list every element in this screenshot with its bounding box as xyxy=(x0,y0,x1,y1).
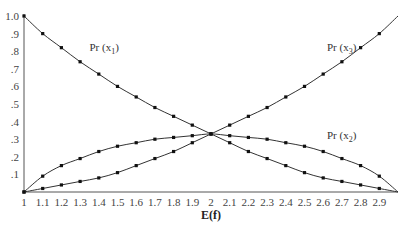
y-tick-label: .8 xyxy=(11,45,20,57)
x-tick-label: 2 xyxy=(208,196,214,208)
y-tick-label: .6 xyxy=(11,80,20,92)
data-point-marker xyxy=(359,183,362,186)
x-tick-label: 2.4 xyxy=(279,196,293,208)
data-point-marker xyxy=(172,115,175,118)
data-point-marker xyxy=(247,150,250,153)
x-tick-label: 2.7 xyxy=(335,196,349,208)
x-tick-label: 1.3 xyxy=(73,196,87,208)
x-tick-label: 2.3 xyxy=(260,196,274,208)
y-tick-label: .7 xyxy=(11,63,20,75)
data-point-marker xyxy=(135,95,138,98)
y-tick-label: .1 xyxy=(11,168,19,180)
x-tick-label: 2.5 xyxy=(298,196,312,208)
y-tick-label: .3 xyxy=(11,133,20,145)
data-point-marker xyxy=(79,180,82,183)
data-point-marker xyxy=(303,171,306,174)
x-tick-label: 1.7 xyxy=(148,196,162,208)
data-point-marker xyxy=(378,175,381,178)
series-label: Pr (x3) xyxy=(327,41,357,56)
data-point-marker xyxy=(284,164,287,167)
data-point-marker xyxy=(284,141,287,144)
data-point-marker xyxy=(97,150,100,153)
x-tick-label: 2.2 xyxy=(242,196,256,208)
data-point-marker xyxy=(172,136,175,139)
series-2 xyxy=(22,132,398,193)
y-tick-label: .9 xyxy=(11,28,20,40)
data-point-marker xyxy=(41,187,44,190)
data-point-marker xyxy=(135,164,138,167)
data-point-marker xyxy=(322,72,325,75)
data-point-marker xyxy=(116,145,119,148)
data-point-marker xyxy=(247,115,250,118)
data-point-marker xyxy=(116,85,119,88)
series-label: Pr (x2) xyxy=(327,129,357,144)
data-point-marker xyxy=(172,150,175,153)
data-point-marker xyxy=(322,150,325,153)
data-point-marker xyxy=(322,176,325,179)
data-point-marker xyxy=(303,145,306,148)
data-point-marker xyxy=(247,136,250,139)
y-tick-label: .5 xyxy=(11,98,20,110)
data-point-marker xyxy=(60,183,63,186)
data-point-marker xyxy=(41,175,44,178)
x-tick-label: 1.2 xyxy=(55,196,69,208)
data-point-marker xyxy=(266,157,269,160)
data-point-marker xyxy=(228,124,231,127)
data-point-marker xyxy=(41,32,44,35)
data-point-marker xyxy=(22,190,25,193)
data-point-marker xyxy=(378,32,381,35)
data-point-marker xyxy=(340,60,343,63)
y-tick-label: .4 xyxy=(11,116,20,128)
series-label: Pr (x1) xyxy=(89,41,119,56)
data-point-marker xyxy=(191,134,194,137)
data-point-marker xyxy=(359,164,362,167)
y-tick-label: .2 xyxy=(11,151,19,163)
data-point-marker xyxy=(266,106,269,109)
x-tick-label: 1.6 xyxy=(129,196,143,208)
x-tick-label: 2.1 xyxy=(223,196,237,208)
data-point-marker xyxy=(22,14,25,17)
x-tick-label: 1.4 xyxy=(92,196,106,208)
data-point-marker xyxy=(303,85,306,88)
x-tick-label: 1.8 xyxy=(167,196,181,208)
data-point-marker xyxy=(60,164,63,167)
data-point-marker xyxy=(359,46,362,49)
data-point-marker xyxy=(153,138,156,141)
plot-area: .1.2.3.4.5.6.7.8.91.0 11.11.21.31.41.51.… xyxy=(5,10,398,208)
data-point-marker xyxy=(97,72,100,75)
chart: .1.2.3.4.5.6.7.8.91.0 11.11.21.31.41.51.… xyxy=(0,0,404,230)
x-tick-label: 2.9 xyxy=(372,196,386,208)
data-point-marker xyxy=(135,141,138,144)
y-tick-label: 1.0 xyxy=(5,10,19,22)
data-point-marker xyxy=(79,157,82,160)
data-point-marker xyxy=(79,60,82,63)
x-tick-labels: 11.11.21.31.41.51.61.71.81.922.12.22.32.… xyxy=(21,196,386,208)
series-line xyxy=(24,134,398,192)
x-tick-label: 1.1 xyxy=(36,196,50,208)
x-axis-title: E(f) xyxy=(201,208,221,222)
x-tick-label: 1.9 xyxy=(185,196,199,208)
data-point-marker xyxy=(340,180,343,183)
data-point-marker xyxy=(60,46,63,49)
data-point-marker xyxy=(228,134,231,137)
x-tick-label: 1.5 xyxy=(111,196,125,208)
data-point-marker xyxy=(116,171,119,174)
x-tick-label: 2.6 xyxy=(316,196,330,208)
x-tick-label: 2.8 xyxy=(354,196,368,208)
data-point-marker xyxy=(153,157,156,160)
data-point-marker xyxy=(97,176,100,179)
data-point-marker xyxy=(191,141,194,144)
data-point-marker xyxy=(153,106,156,109)
data-point-marker xyxy=(191,124,194,127)
data-point-marker xyxy=(340,157,343,160)
data-point-marker xyxy=(266,138,269,141)
data-point-marker xyxy=(228,141,231,144)
data-point-marker xyxy=(284,95,287,98)
x-tick-label: 1 xyxy=(21,196,27,208)
data-point-marker xyxy=(378,187,381,190)
data-point-marker xyxy=(209,132,212,135)
y-tick-labels: .1.2.3.4.5.6.7.8.91.0 xyxy=(5,10,19,180)
